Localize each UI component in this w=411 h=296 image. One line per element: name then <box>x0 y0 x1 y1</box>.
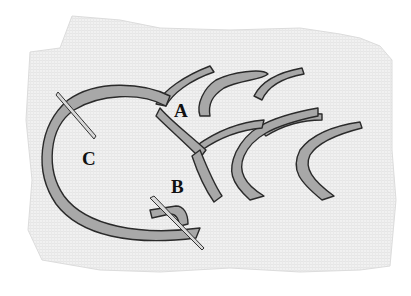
label-c: C <box>82 149 96 168</box>
label-b: B <box>171 177 184 196</box>
label-a: A <box>174 101 188 120</box>
stitch-illustration <box>0 0 411 296</box>
